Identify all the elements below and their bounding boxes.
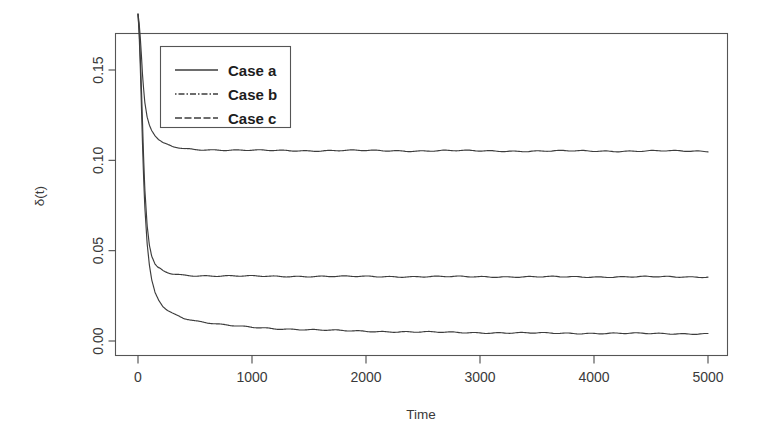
chart-page: 0.000.050.100.15 010002000300040005000 T… [0,0,764,448]
x-tick-label: 3000 [464,369,495,385]
y-axis-ticks: 0.000.050.100.15 [90,56,115,354]
y-tick-label: 0.00 [90,327,106,354]
line-chart: 0.000.050.100.15 010002000300040005000 T… [0,0,764,448]
legend-label-case-a: Case a [228,62,277,79]
legend-label-case-b: Case b [228,86,277,103]
y-tick-label: 0.10 [90,146,106,173]
y-tick-label: 0.05 [90,237,106,264]
x-tick-label: 4000 [578,369,609,385]
x-axis-ticks: 010002000300040005000 [134,356,724,385]
x-tick-label: 1000 [236,369,267,385]
legend-label-case-c: Case c [228,110,276,127]
x-tick-label: 0 [134,369,142,385]
x-tick-label: 5000 [692,369,723,385]
y-axis-title: δ(t) [32,186,47,206]
x-axis-title: Time [406,407,436,422]
y-tick-label: 0.15 [90,56,106,83]
x-tick-label: 2000 [350,369,381,385]
legend: Case aCase bCase c [161,47,291,128]
